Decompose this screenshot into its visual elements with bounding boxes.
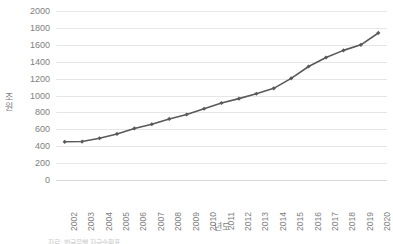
line-chart: 조 원 020040060080010001200140016001800200…: [0, 0, 393, 244]
y-axis-tick-2000: 2000: [30, 6, 50, 16]
data-point-2010: [202, 107, 206, 111]
data-point-2008: [167, 117, 171, 121]
data-point-2012: [237, 97, 241, 101]
data-point-2011: [219, 101, 223, 105]
y-axis-title-char-1: 조: [2, 92, 16, 102]
y-axis-tick-800: 800: [35, 107, 50, 117]
x-axis-tick-labels: 2002200320042005200620072008200920102011…: [56, 182, 387, 216]
y-axis-title: 조 원: [2, 92, 16, 112]
data-point-2009: [185, 112, 189, 116]
y-axis-tick-200: 200: [35, 158, 50, 168]
plot-area: [56, 11, 387, 180]
y-axis-tick-600: 600: [35, 124, 50, 134]
data-point-2007: [150, 122, 154, 126]
y-axis-tick-0: 0: [45, 175, 50, 185]
y-axis-tick-1600: 1600: [30, 40, 50, 50]
data-point-2003: [80, 139, 84, 143]
y-axis-tick-1200: 1200: [30, 74, 50, 84]
y-axis-tick-1800: 1800: [30, 23, 50, 33]
data-point-2018: [341, 48, 345, 52]
y-axis-tick-1000: 1000: [30, 91, 50, 101]
data-point-2004: [97, 136, 101, 140]
data-series-line: [56, 11, 387, 180]
y-axis-title-char-2: 원: [2, 102, 16, 112]
gridline-0: [56, 180, 387, 181]
y-axis-tick-labels: 0200400600800100012001400160018002000: [16, 0, 52, 244]
data-point-2013: [254, 92, 258, 96]
x-axis-title: 년도: [56, 220, 387, 233]
series-markers: [63, 31, 381, 144]
data-point-2002: [63, 140, 67, 144]
y-axis-tick-1400: 1400: [30, 57, 50, 67]
series-polyline: [65, 33, 379, 142]
chart-footnote: 자료: 한국은행 자금순환표: [48, 237, 120, 244]
y-axis-tick-400: 400: [35, 141, 50, 151]
data-point-2006: [132, 126, 136, 130]
data-point-2005: [115, 132, 119, 136]
